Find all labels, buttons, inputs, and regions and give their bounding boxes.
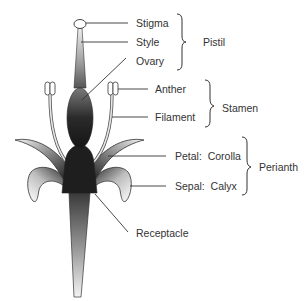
- label-filament: Filament: [155, 111, 195, 123]
- label-stigma: Stigma: [136, 17, 169, 29]
- stem-shape: [69, 193, 90, 297]
- group-label-pistil: Pistil: [203, 36, 225, 48]
- anther-left-shape: [45, 82, 55, 95]
- receptacle-shape: [62, 145, 97, 193]
- label-ovary: Ovary: [136, 55, 165, 67]
- label-style: Style: [136, 36, 160, 48]
- group-label-perianth: Perianth: [259, 161, 298, 173]
- label-anther: Anther: [155, 83, 186, 95]
- ovary-leader: [82, 58, 126, 100]
- ovary-shape: [67, 88, 93, 148]
- group-label-stamen: Stamen: [222, 102, 258, 114]
- stamen-brace: [205, 80, 214, 127]
- label-petal-corolla: Petal: Corolla: [175, 150, 241, 162]
- anther-right-shape: [108, 82, 118, 95]
- perianth-brace: [242, 137, 251, 195]
- flower-diagram: Stigma Style Ovary Anther Filament Petal…: [0, 0, 304, 301]
- label-receptacle: Receptacle: [136, 227, 189, 239]
- stigma-shape: [74, 20, 86, 29]
- label-sepal-calyx: Sepal: Calyx: [175, 180, 238, 192]
- style-shape: [74, 28, 86, 88]
- pistil-brace: [177, 14, 186, 70]
